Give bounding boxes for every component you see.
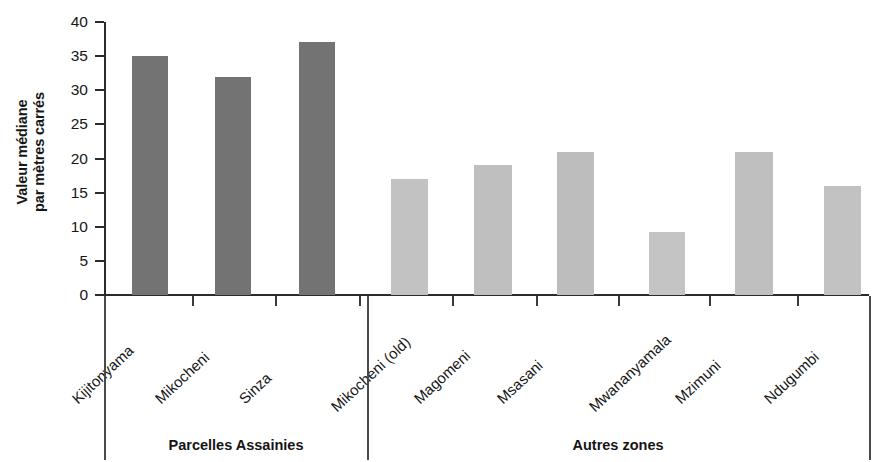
x-axis-label: Mikocheni (old)	[327, 333, 413, 415]
bar	[391, 179, 428, 295]
x-axis-label: Mwananyamala	[585, 331, 673, 415]
bar	[649, 232, 685, 295]
x-tick-mark	[536, 296, 538, 306]
x-axis-label: Ndugumbi	[760, 348, 822, 407]
group-label: Parcelles Assainies	[169, 437, 304, 453]
bar	[299, 42, 335, 295]
x-axis-label: Msasani	[493, 356, 545, 407]
x-tick-mark	[618, 296, 620, 306]
group-label: Autres zones	[572, 437, 663, 453]
bar	[557, 152, 594, 295]
bar	[824, 186, 861, 295]
x-axis-label: Mikocheni	[151, 349, 212, 407]
x-tick-mark	[797, 296, 799, 306]
x-tick-mark	[192, 296, 194, 306]
bar	[735, 152, 773, 295]
bar	[215, 77, 251, 295]
group-divider	[869, 296, 871, 460]
x-axis-label: Kijitonyama	[68, 342, 136, 407]
x-tick-mark	[275, 296, 277, 306]
group-divider	[104, 296, 106, 460]
group-divider	[367, 296, 369, 460]
bar	[474, 165, 512, 295]
x-axis-label: Mzimuni	[671, 356, 723, 407]
bars-container	[0, 22, 872, 295]
x-axis-label: Sinza	[235, 369, 274, 407]
x-tick-mark	[452, 296, 454, 306]
x-axis-label: Magomeni	[410, 347, 473, 407]
x-tick-mark	[709, 296, 711, 306]
bar	[132, 56, 168, 295]
bar-chart: Valeur médiane par mètres carrés 0510152…	[0, 0, 872, 462]
x-tick-mark	[359, 296, 361, 306]
